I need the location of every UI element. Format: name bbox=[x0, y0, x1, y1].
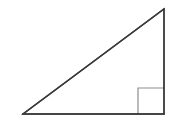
triangle-figure bbox=[0, 0, 172, 132]
triangle-diagram-svg bbox=[0, 0, 172, 132]
faint-watermark bbox=[46, 120, 128, 127]
